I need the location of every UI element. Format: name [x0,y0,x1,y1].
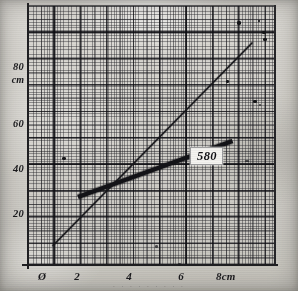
scan-speck [226,80,229,83]
plot-frame-top [28,5,275,6]
graph-paper-grid [28,6,275,265]
x-tick-label-0: Ø [29,270,55,282]
x-tick-label-4: 4 [116,270,142,282]
scan-speck [62,157,66,160]
grid-major-lines [28,6,275,265]
x-tick-label-8cm: 8cm [216,270,258,282]
y-tick-label-40: 40 [2,163,24,174]
y-axis-unit-label: cm [2,74,24,85]
scan-speck [258,20,260,22]
scan-speck [259,104,261,106]
x-axis-line [22,264,278,266]
series-callout-580: 580 [190,147,223,165]
y-tick-label-20: 20 [2,208,24,219]
scan-speck [178,263,181,266]
scan-speck [262,31,266,34]
scan-speck [263,38,267,41]
scan-speck [253,100,257,103]
y-axis-line [27,3,29,269]
scan-speck [155,245,158,248]
cropped-caption-ghost: · · · · · · · · · [0,283,298,291]
plot-frame-right [274,5,276,266]
x-tick-label-2: 2 [64,270,90,282]
scanned-chart-figure: 20 40 60 80 cm Ø 2 4 6 8cm 580 · · · · ·… [0,0,298,291]
y-tick-label-80: 80 [2,61,24,72]
x-tick-label-6: 6 [168,270,194,282]
scan-speck [245,160,249,162]
y-tick-label-60: 60 [2,118,24,129]
scan-speck [237,21,241,25]
